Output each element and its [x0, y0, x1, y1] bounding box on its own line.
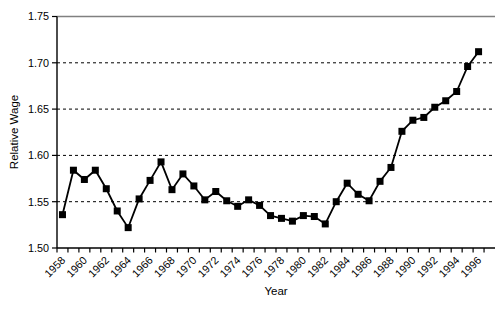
data-point-marker: [256, 202, 263, 209]
data-point-marker: [234, 203, 241, 210]
relative-wage-chart: 1.501.551.601.651.701.751958196019621964…: [0, 0, 498, 311]
x-tick-label: 1996: [458, 254, 483, 279]
data-point-marker: [377, 178, 384, 185]
data-point-marker: [212, 188, 219, 195]
data-point-marker: [70, 167, 77, 174]
x-tick-label: 1982: [305, 254, 330, 279]
data-point-marker: [420, 114, 427, 121]
data-point-marker: [136, 195, 143, 202]
data-point-marker: [344, 180, 351, 187]
data-point-marker: [190, 182, 197, 189]
x-tick-label: 1978: [261, 254, 286, 279]
data-point-marker: [81, 176, 88, 183]
chart-canvas: 1.501.551.601.651.701.751958196019621964…: [0, 0, 498, 311]
data-point-marker: [114, 207, 121, 214]
data-point-marker: [409, 117, 416, 124]
data-point-marker: [223, 197, 230, 204]
data-point-marker: [322, 220, 329, 227]
x-tick-label: 1992: [414, 254, 439, 279]
data-point-marker: [103, 185, 110, 192]
y-tick-label: 1.50: [28, 242, 49, 254]
x-tick-label: 1986: [349, 254, 374, 279]
y-tick-label: 1.55: [28, 196, 49, 208]
gridlines: [57, 63, 495, 202]
data-point-marker: [311, 213, 318, 220]
data-point-marker: [267, 212, 274, 219]
x-tick-label: 1994: [436, 254, 461, 279]
data-point-marker: [289, 218, 296, 225]
data-point-marker: [158, 158, 165, 165]
data-point-marker: [431, 104, 438, 111]
x-tick-label: 1990: [392, 254, 417, 279]
data-point-marker: [453, 88, 460, 95]
data-point-marker: [387, 164, 394, 171]
data-point-marker: [201, 196, 208, 203]
data-point-marker: [245, 196, 252, 203]
x-axis-title: Year: [264, 285, 287, 297]
data-point-marker: [179, 170, 186, 177]
x-tick-label: 1960: [64, 254, 89, 279]
x-tick-label: 1964: [108, 254, 133, 279]
data-point-marker: [464, 63, 471, 70]
data-point-marker: [300, 212, 307, 219]
data-point-marker: [125, 224, 132, 231]
axes: [57, 17, 495, 249]
x-tick-label: 1972: [195, 254, 220, 279]
y-axis-title: Relative Wage: [8, 95, 20, 169]
x-tick-label: 1958: [42, 254, 67, 279]
data-point-marker: [366, 197, 373, 204]
data-point-marker: [278, 215, 285, 222]
data-point-marker: [333, 198, 340, 205]
x-tick-label: 1988: [370, 254, 395, 279]
x-tick-label: 1984: [327, 254, 352, 279]
tick-labels: 1.501.551.601.651.701.751958196019621964…: [28, 10, 484, 279]
x-tick-label: 1966: [130, 254, 155, 279]
x-tick-label: 1974: [217, 254, 242, 279]
x-tick-label: 1980: [283, 254, 308, 279]
data-point-marker: [475, 48, 482, 55]
data-series: [59, 48, 482, 231]
y-tick-label: 1.60: [28, 149, 49, 161]
y-tick-label: 1.75: [28, 10, 49, 22]
data-point-marker: [92, 167, 99, 174]
x-tick-label: 1962: [86, 254, 111, 279]
data-point-marker: [355, 191, 362, 198]
data-point-marker: [147, 177, 154, 184]
y-tick-label: 1.65: [28, 103, 49, 115]
x-tick-label: 1976: [239, 254, 264, 279]
data-point-marker: [398, 128, 405, 135]
data-point-marker: [442, 97, 449, 104]
x-tick-label: 1968: [151, 254, 176, 279]
x-tick-label: 1970: [173, 254, 198, 279]
data-point-marker: [59, 211, 66, 218]
y-tick-label: 1.70: [28, 57, 49, 69]
data-point-marker: [168, 186, 175, 193]
